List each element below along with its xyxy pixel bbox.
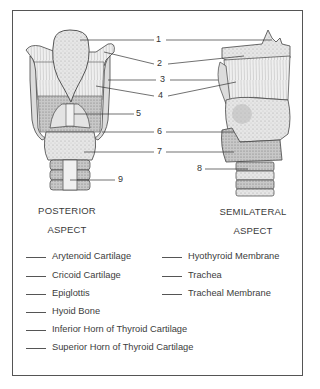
posterior-caption-line2: ASPECT (47, 224, 86, 235)
posterior-caption-line1: POSTERIOR (38, 205, 96, 216)
legend-label: Superior Horn of Thyroid Cartilage (52, 342, 193, 352)
answer-blank[interactable] (26, 256, 46, 258)
answer-blank[interactable] (26, 293, 46, 295)
answer-blank[interactable] (26, 347, 46, 349)
legend-label: Inferior Horn of Thyroid Cartilage (52, 324, 187, 334)
legend-item-superior-horn: Superior Horn of Thyroid Cartilage (26, 342, 193, 352)
posterior-view-drawing (26, 30, 114, 190)
answer-blank[interactable] (162, 275, 182, 277)
legend-item-hyothyroid: Hyothyroid Membrane (162, 251, 279, 261)
callout-4: 4 (158, 91, 163, 100)
legend-label: Hyothyroid Membrane (188, 251, 279, 261)
legend-label: Epiglottis (52, 288, 90, 298)
answer-blank[interactable] (26, 311, 46, 313)
callout-3: 3 (160, 75, 165, 84)
callout-5: 5 (136, 109, 141, 118)
legend-label: Hyoid Bone (52, 306, 100, 316)
callout-2: 2 (157, 59, 162, 68)
answer-blank[interactable] (162, 293, 182, 295)
legend-item-epiglottis: Epiglottis (26, 288, 90, 298)
legend-label: Trachea (188, 270, 222, 280)
semilateral-view-drawing (218, 30, 290, 196)
legend-item-hyoid: Hyoid Bone (26, 306, 100, 316)
legend-item-inferior-horn: Inferior Horn of Thyroid Cartilage (26, 324, 187, 334)
legend-item-arytenoid: Arytenoid Cartilage (26, 251, 131, 261)
legend-label: Tracheal Membrane (188, 288, 271, 298)
answer-blank[interactable] (162, 256, 182, 258)
callout-6: 6 (157, 127, 162, 136)
callout-7: 7 (157, 147, 162, 156)
answer-blank[interactable] (26, 329, 46, 331)
callout-9: 9 (118, 175, 123, 184)
semilateral-caption-line1: SEMILATERAL (220, 206, 287, 217)
legend-label: Cricoid Cartilage (52, 270, 121, 280)
legend-label: Arytenoid Cartilage (52, 251, 131, 261)
legend-item-tracheal-membrane: Tracheal Membrane (162, 288, 271, 298)
callout-8: 8 (197, 164, 202, 173)
legend-item-cricoid: Cricoid Cartilage (26, 270, 121, 280)
answer-blank[interactable] (26, 275, 46, 277)
legend-item-trachea: Trachea (162, 270, 222, 280)
semilateral-caption-line2: ASPECT (233, 225, 272, 236)
callout-1: 1 (156, 35, 161, 44)
